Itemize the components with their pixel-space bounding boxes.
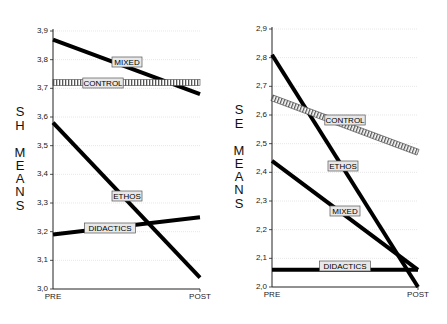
svg-text:DIDACTICS: DIDACTICS	[88, 224, 131, 233]
y-tick-label: 3,2	[37, 227, 49, 236]
y-tick-label: 2,4	[256, 167, 268, 176]
y-tick-label: 2,6	[256, 110, 268, 119]
y-tick-label: 2,9	[256, 24, 268, 33]
series-label-control: CONTROL	[325, 115, 365, 125]
y-tick-label: 2,3	[256, 196, 268, 205]
svg-text:MIXED: MIXED	[332, 207, 358, 216]
y-axis-label-letter: S	[235, 102, 244, 117]
svg-text:CONTROL: CONTROL	[325, 116, 365, 125]
y-axis-label-letter: S	[16, 104, 25, 119]
y-tick-label: 3,3	[37, 198, 49, 207]
x-label-pre: PRE	[264, 290, 280, 299]
y-tick-label: 3,4	[37, 169, 49, 178]
x-label-post: POST	[189, 292, 211, 301]
x-label-post: POST	[407, 290, 429, 299]
series-label-ethos: ETHOS	[112, 191, 142, 201]
y-tick-label: 2,1	[256, 253, 268, 262]
y-tick-label: 3,7	[37, 83, 49, 92]
svg-text:ETHOS: ETHOS	[329, 162, 357, 171]
y-axis-label-letter: S	[16, 198, 25, 213]
y-tick-label: 2,5	[256, 139, 268, 148]
svg-text:ETHOS: ETHOS	[113, 192, 141, 201]
y-tick-label: 3,1	[37, 255, 49, 264]
series-line-control	[53, 80, 200, 86]
y-axis-label-letter: E	[235, 116, 244, 131]
x-label-pre: PRE	[45, 292, 61, 301]
y-tick-label: 3,9	[37, 26, 49, 35]
series-label-mixed: MIXED	[330, 206, 360, 216]
series-label-ethos: ETHOS	[328, 161, 358, 171]
svg-text:MIXED: MIXED	[114, 58, 140, 67]
series-label-control: CONTROL	[83, 78, 123, 88]
svg-text:DIDACTICS: DIDACTICS	[323, 262, 366, 271]
series-label-didactics: DIDACTICS	[85, 223, 136, 233]
y-axis-label-letter: H	[15, 118, 24, 133]
chart-canvas: 3,03,13,23,33,43,53,63,73,83,9PREPOSTSHM…	[0, 0, 447, 324]
series-label-didactics: DIDACTICS	[320, 261, 371, 271]
sh-means-chart: 3,03,13,23,33,43,53,63,73,83,9PREPOSTSHM…	[15, 26, 211, 301]
se-means-chart: 2,02,12,22,32,42,52,62,72,82,9PREPOSTSEM…	[234, 24, 429, 299]
y-tick-label: 2,7	[256, 81, 268, 90]
y-axis-label-letter: N	[234, 182, 243, 197]
y-tick-label: 2,2	[256, 225, 268, 234]
y-tick-label: 3,6	[37, 112, 49, 121]
y-axis-label-letter: N	[15, 184, 24, 199]
y-tick-label: 3,8	[37, 55, 49, 64]
y-tick-label: 3,5	[37, 141, 49, 150]
svg-text:CONTROL: CONTROL	[83, 79, 123, 88]
y-tick-label: 2,8	[256, 53, 268, 62]
y-axis-label-letter: S	[235, 196, 244, 211]
series-label-mixed: MIXED	[112, 57, 142, 67]
